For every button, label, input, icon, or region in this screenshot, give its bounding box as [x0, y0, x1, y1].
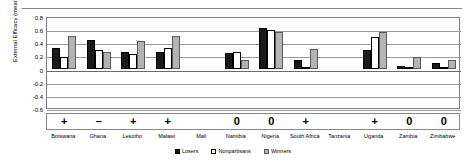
significance-sign: +	[47, 114, 82, 129]
bar-group	[47, 18, 82, 108]
bar-nonpartisans	[164, 48, 172, 68]
legend-item-losers[interactable]: Losers	[175, 148, 199, 154]
bar-group	[151, 18, 186, 108]
legend-swatch-icon	[264, 149, 269, 154]
bar-losers	[397, 66, 405, 69]
bar-losers	[259, 28, 267, 69]
legend-label: Winners	[271, 148, 291, 154]
chart-legend: LosersNonpartisansWinners	[0, 148, 466, 154]
bar-losers	[156, 52, 164, 69]
significance-band: +–++00++00	[46, 113, 460, 130]
bar-winners	[172, 36, 180, 69]
gridline	[47, 110, 461, 111]
bar-winners	[379, 32, 387, 68]
legend-label: Nonpartisans	[218, 148, 250, 154]
significance-sign: –	[82, 114, 117, 129]
bar-winners	[68, 36, 76, 69]
significance-sign: +	[358, 114, 393, 129]
bar-group	[358, 18, 393, 108]
y-tick-label: -0.6	[19, 107, 43, 113]
bar-losers	[432, 63, 440, 68]
bar-losers	[121, 52, 129, 68]
bar-group	[220, 18, 255, 108]
significance-sign: +	[151, 114, 186, 129]
y-tick-label: 0.6	[19, 28, 43, 34]
legend-item-winners[interactable]: Winners	[264, 148, 291, 154]
bar-losers	[87, 40, 95, 68]
bar-nonpartisans	[267, 30, 275, 69]
bar-group	[82, 18, 117, 108]
bar-losers	[225, 53, 233, 68]
bar-nonpartisans	[129, 54, 137, 68]
bar-winners	[275, 32, 283, 68]
bar-nonpartisans	[302, 67, 310, 69]
bar-nonpartisans	[60, 57, 68, 69]
legend-swatch-icon	[211, 149, 216, 154]
bar-winners	[448, 60, 456, 69]
bar-group	[323, 18, 358, 108]
bar-series-container	[47, 18, 459, 108]
bar-nonpartisans	[440, 67, 448, 69]
significance-sign: 0	[427, 114, 462, 129]
plot-area: 0.80.60.40.20-0.2-0.4-0.6	[46, 17, 460, 109]
chart-figure: External Efficacy (mean) 0.80.60.40.20-0…	[0, 0, 466, 164]
bar-winners	[310, 49, 318, 69]
significance-sign: +	[116, 114, 151, 129]
significance-sign	[185, 114, 220, 129]
legend-label: Losers	[182, 148, 199, 154]
bar-winners	[241, 60, 249, 69]
y-tick-label: 0.4	[19, 41, 43, 47]
bar-losers	[294, 60, 302, 69]
significance-sign: 0	[392, 114, 427, 129]
bar-group	[254, 18, 289, 108]
bar-group	[392, 18, 427, 108]
bar-group	[427, 18, 462, 108]
significance-sign: 0	[220, 114, 255, 129]
bar-winners	[103, 52, 111, 68]
significance-sign: 0	[254, 114, 289, 129]
bar-losers	[52, 48, 60, 69]
y-tick-label: -0.4	[19, 94, 43, 100]
bar-winners	[413, 57, 421, 68]
x-axis-labels: BotswanaGhanaLesothoMalawiMaliNamibiaNig…	[46, 133, 460, 149]
bar-group	[289, 18, 324, 108]
y-tick-label: 0.8	[19, 15, 43, 21]
y-axis-title: External Efficacy (mean)	[12, 0, 19, 78]
bar-nonpartisans	[405, 67, 413, 69]
bar-losers	[363, 50, 371, 68]
y-tick-label: 0	[19, 68, 43, 74]
bar-nonpartisans	[95, 50, 103, 69]
bar-nonpartisans	[233, 52, 241, 69]
y-tick-label: -0.2	[19, 81, 43, 87]
significance-sign: +	[289, 114, 324, 129]
bar-group	[116, 18, 151, 108]
top-divider	[22, 8, 462, 9]
y-tick-label: 0.2	[19, 54, 43, 60]
legend-item-nonpartisans[interactable]: Nonpartisans	[211, 148, 250, 154]
bar-nonpartisans	[371, 37, 379, 69]
bar-group	[185, 18, 220, 108]
significance-sign	[323, 114, 358, 129]
x-tick-label: Zimbabwe	[422, 133, 465, 140]
legend-swatch-icon	[175, 149, 180, 154]
bar-winners	[137, 41, 145, 69]
